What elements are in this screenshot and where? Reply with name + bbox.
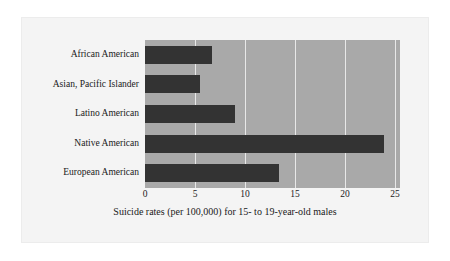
x-tick-label: 20: [340, 190, 350, 200]
plot-area: African AmericanAsian, Pacific IslanderL…: [145, 40, 400, 188]
category-label: African American: [71, 50, 139, 60]
bar-row: Native American: [145, 129, 400, 159]
chart-figure: African AmericanAsian, Pacific IslanderL…: [22, 18, 428, 242]
bar-row: Asian, Pacific Islander: [145, 70, 400, 100]
bar: [145, 46, 212, 64]
bar: [145, 105, 235, 123]
bar-row: European American: [145, 158, 400, 188]
category-label: Native American: [74, 139, 139, 149]
x-tick-label: 25: [390, 190, 400, 200]
x-tick-label: 15: [290, 190, 300, 200]
bar: [145, 164, 279, 182]
bar-row: Latino American: [145, 99, 400, 129]
bar: [145, 135, 384, 153]
x-tick-label: 5: [193, 190, 198, 200]
x-tick-label: 0: [143, 190, 148, 200]
category-label: Latino American: [75, 109, 139, 119]
x-axis-title: Suicide rates (per 100,000) for 15- to 1…: [22, 206, 428, 217]
bar: [145, 75, 200, 93]
bar-row: African American: [145, 40, 400, 70]
category-label: Asian, Pacific Islander: [53, 80, 139, 90]
category-label: European American: [63, 168, 139, 178]
x-tick-label: 10: [240, 190, 250, 200]
x-axis-tick-labels: 0510152025: [145, 190, 400, 204]
